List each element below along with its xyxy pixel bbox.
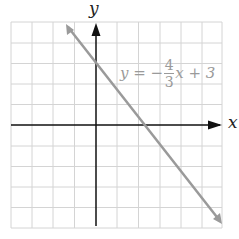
coordinate-plane — [0, 0, 239, 239]
y-axis-arrow-icon — [92, 23, 101, 36]
equation-fraction: 43 — [164, 58, 174, 89]
equation-denominator: 3 — [164, 75, 174, 89]
equation-rhs: x + 3 — [175, 64, 215, 82]
x-axis-label: x — [228, 112, 238, 132]
equation-lhs: y = − — [120, 64, 163, 82]
line-series — [66, 24, 222, 224]
equation-label: y = −43x + 3 — [120, 58, 215, 89]
equation-numerator: 4 — [164, 58, 174, 72]
y-axis-label: y — [89, 0, 99, 18]
x-axis-arrow-icon — [208, 121, 222, 130]
